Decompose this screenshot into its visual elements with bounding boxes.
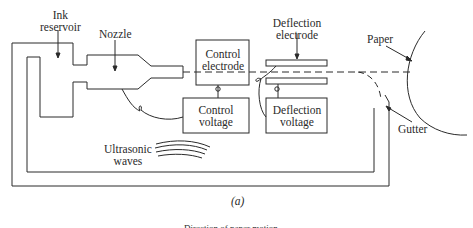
ultrasonic-waves-label: Ultrasonic waves <box>104 143 152 167</box>
bottom-partial-label: Direction of paper motion <box>184 222 278 228</box>
nozzle-arrowhead <box>113 66 117 71</box>
paper-label: Paper <box>367 33 393 45</box>
deflection-electrode-label: Deflection electrode <box>268 17 326 41</box>
control-electrode-label: Control electrode <box>200 48 246 72</box>
paper-arc <box>407 31 467 135</box>
gutter-label: Gutter <box>398 123 427 135</box>
deflected-stream <box>358 72 381 100</box>
ink-reservoir-label: Ink reservoir <box>40 9 81 33</box>
deflection-plate-bottom <box>266 78 327 84</box>
control-voltage-label: Control voltage <box>184 104 248 128</box>
deflection-voltage-label: Deflection voltage <box>267 104 327 128</box>
reservoir-arrowhead <box>56 53 60 58</box>
nozzle-label: Nozzle <box>99 28 132 40</box>
nozzle-wire <box>122 89 183 119</box>
figure-caption: (a) <box>231 195 244 207</box>
deflection-plate-top <box>266 60 327 66</box>
ultrasonic-waves-icon <box>155 141 210 158</box>
